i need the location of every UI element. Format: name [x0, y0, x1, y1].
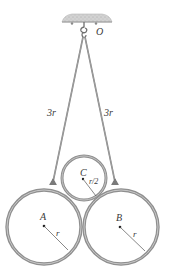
right-knot-icon	[111, 178, 119, 185]
cylinder-b	[84, 190, 158, 264]
point-o-label: O	[96, 26, 103, 37]
right-cord-length-label: 3r	[103, 107, 113, 118]
cylinder-c-label: C	[80, 167, 87, 178]
cylinder-b-label: B	[116, 212, 122, 223]
cylinder-a-label: A	[39, 211, 47, 222]
cylinder-suspension-diagram: O 3r 3r A r B r C r/2	[0, 0, 170, 279]
cylinder-b-radius-label: r	[133, 229, 137, 239]
left-knot-icon	[49, 178, 57, 185]
cylinder-c-radius-label: r/2	[89, 177, 98, 186]
cylinder-c	[62, 156, 106, 200]
ceiling-support	[62, 14, 112, 25]
cylinder-a	[7, 190, 81, 264]
hook-icon	[81, 22, 87, 37]
cylinder-a-radius-label: r	[56, 228, 60, 238]
left-cord-length-label: 3r	[46, 107, 56, 118]
